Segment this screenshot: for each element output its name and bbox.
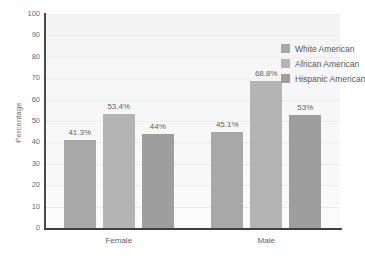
y-axis-tick-label: 100 — [14, 10, 40, 18]
legend-swatch-icon — [281, 74, 290, 83]
bar-group: 41.3%53.4%44% — [45, 14, 193, 228]
legend-item[interactable]: White American — [281, 42, 365, 55]
bar[interactable] — [211, 132, 243, 229]
bar-wrap: 68.8% — [250, 14, 282, 228]
bar-value-label: 53.4% — [107, 102, 130, 111]
bar[interactable] — [103, 114, 135, 228]
bar[interactable] — [289, 115, 321, 228]
bar-wrap: 45.1% — [211, 14, 243, 228]
bar-value-label: 44% — [150, 122, 166, 131]
plot-area: 41.3%53.4%44%45.1%68.8%53% White America… — [45, 14, 340, 228]
legend-swatch-icon — [281, 59, 290, 68]
y-axis-tick-label: 20 — [14, 181, 40, 189]
x-axis-category-label: Male — [258, 236, 275, 245]
y-axis-tick-label: 70 — [14, 74, 40, 82]
y-axis-tick-label: 0 — [14, 224, 40, 232]
y-axis-tick-labels: 1009080706050403020100 — [14, 14, 40, 228]
bar-value-label: 41.3% — [68, 128, 91, 137]
y-axis-tick-label: 30 — [14, 160, 40, 168]
legend-label: Hispanic American — [295, 74, 365, 84]
x-axis-line — [44, 228, 342, 230]
bar[interactable] — [64, 140, 96, 228]
bar-value-label: 53% — [297, 103, 313, 112]
y-axis-tick-label: 50 — [14, 117, 40, 125]
legend-item[interactable]: African American — [281, 57, 365, 70]
bar[interactable] — [142, 134, 174, 228]
y-axis-tick-label: 60 — [14, 96, 40, 104]
bar-wrap: 41.3% — [64, 14, 96, 228]
y-axis-tick-label: 90 — [14, 31, 40, 39]
legend-label: African American — [295, 59, 359, 69]
legend-label: White American — [295, 44, 355, 54]
bar-wrap: 44% — [142, 14, 174, 228]
bar-value-label: 68.8% — [255, 69, 278, 78]
y-axis-tick-label: 40 — [14, 138, 40, 146]
y-axis-line — [44, 13, 46, 229]
legend: White AmericanAfrican AmericanHispanic A… — [281, 42, 365, 87]
y-axis-tick-label: 80 — [14, 53, 40, 61]
x-axis-category-label: Female — [105, 236, 132, 245]
legend-swatch-icon — [281, 44, 290, 53]
y-axis-tick-label: 10 — [14, 203, 40, 211]
legend-item[interactable]: Hispanic American — [281, 72, 365, 85]
bar-value-label: 45.1% — [216, 120, 239, 129]
bar-wrap: 53.4% — [103, 14, 135, 228]
bar[interactable] — [250, 81, 282, 228]
